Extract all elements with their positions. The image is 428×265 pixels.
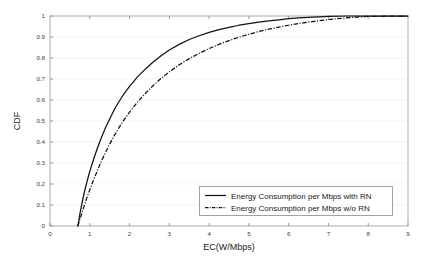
y-tick-label: 0.9 <box>36 33 45 40</box>
x-tick-label: 7 <box>327 230 331 237</box>
legend-label-with-rn: Energy Consumption per Mbps with RN <box>231 192 372 201</box>
y-tick-label: 0.2 <box>36 180 45 187</box>
y-tick-label: 0.4 <box>36 138 45 145</box>
y-tick-label: 0.7 <box>36 75 45 82</box>
chart-background <box>0 0 428 265</box>
y-tick-label: 0.1 <box>36 201 45 208</box>
y-tick-label: 0.8 <box>36 54 45 61</box>
x-tick-label: 8 <box>366 230 370 237</box>
chart-legend[interactable]: Energy Consumption per Mbps with RN Ener… <box>200 187 393 216</box>
x-tick-label: 6 <box>287 230 291 237</box>
y-tick-label: 0.6 <box>36 96 45 103</box>
y-tick-label: 0 <box>42 222 46 229</box>
x-tick-label: 3 <box>168 230 172 237</box>
x-tick-label: 9 <box>406 230 410 237</box>
y-tick-label: 0.3 <box>36 159 45 166</box>
x-tick-label: 4 <box>207 230 211 237</box>
legend-label-wo-rn: Energy Consumption per Mbps w/o RN <box>231 204 370 213</box>
x-tick-label: 5 <box>247 230 251 237</box>
y-axis-title: CDF <box>12 111 22 130</box>
figure-canvas: 00.10.20.30.40.50.60.70.80.91 0123456789… <box>0 0 428 265</box>
y-tick-label: 0.5 <box>36 117 45 124</box>
cdf-chart: 00.10.20.30.40.50.60.70.80.91 0123456789… <box>0 0 428 265</box>
x-tick-label: 0 <box>48 230 52 237</box>
y-tick-label: 1 <box>42 12 46 19</box>
x-tick-label: 1 <box>88 230 92 237</box>
x-axis-title: EC(W/Mbps) <box>203 242 255 252</box>
x-tick-label: 2 <box>128 230 132 237</box>
